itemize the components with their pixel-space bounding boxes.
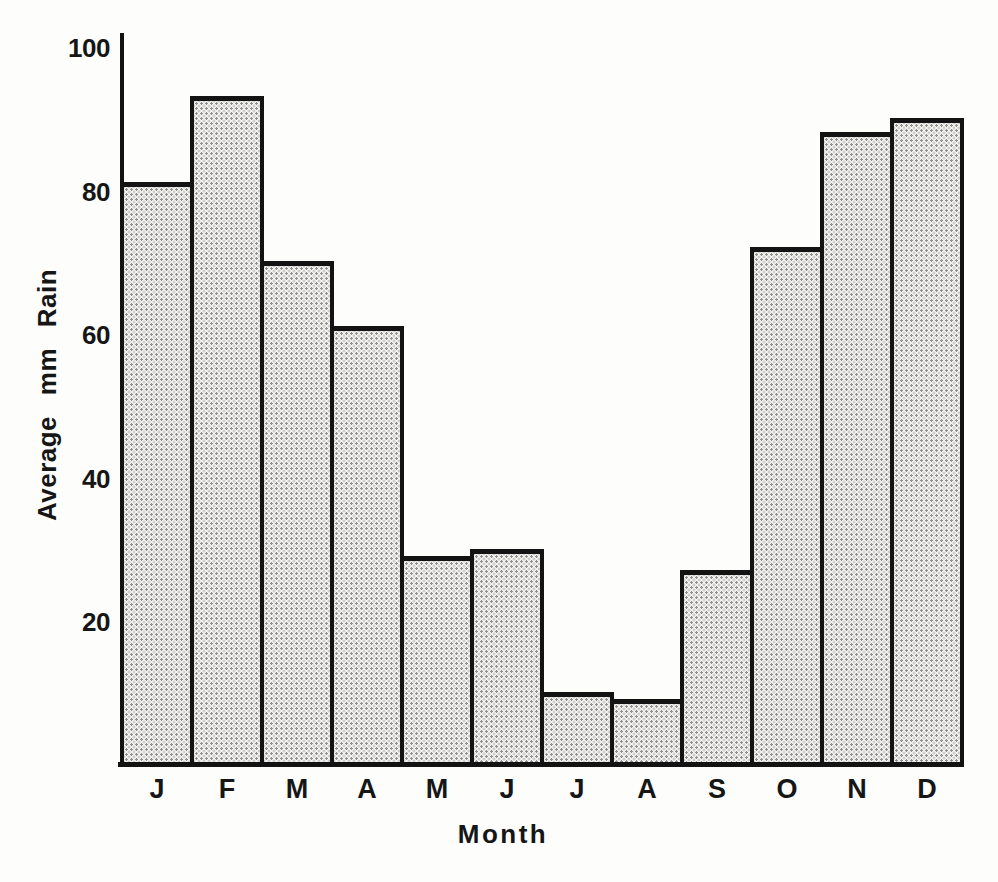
- bar-jan: [120, 182, 194, 767]
- y-axis-line: [120, 33, 124, 767]
- x-axis-line: [118, 762, 964, 767]
- x-category-label-jan: J: [120, 773, 194, 805]
- x-category-label-dec: D: [890, 773, 964, 805]
- bar-nov: [820, 132, 894, 767]
- x-category-label-sep: S: [680, 773, 754, 805]
- y-tick-label-80: 80: [32, 176, 110, 208]
- bar-apr: [330, 326, 404, 767]
- x-axis-title: Month: [353, 818, 653, 850]
- bar-feb: [190, 96, 264, 767]
- bar-jul: [540, 692, 614, 767]
- bar-may: [400, 556, 474, 767]
- x-category-label-nov: N: [820, 773, 894, 805]
- bar-sep: [680, 570, 754, 767]
- x-category-label-jun: J: [470, 773, 544, 805]
- bar-aug: [610, 699, 684, 767]
- bar-oct: [750, 247, 824, 767]
- bar-jun: [470, 549, 544, 767]
- y-axis-title: Average mm Rain: [31, 245, 63, 545]
- y-tick-label-20: 20: [32, 606, 110, 638]
- scanned-rainfall-bar-chart: 20406080100 JFMAMJJASOND Average mm Rain…: [0, 0, 998, 882]
- x-category-label-may: M: [400, 773, 474, 805]
- y-tick-label-100: 100: [32, 32, 110, 64]
- x-category-label-feb: F: [190, 773, 264, 805]
- x-category-label-jul: J: [540, 773, 614, 805]
- x-category-label-mar: M: [260, 773, 334, 805]
- x-category-label-apr: A: [330, 773, 404, 805]
- x-category-label-aug: A: [610, 773, 684, 805]
- bar-dec: [890, 118, 964, 767]
- bar-mar: [260, 261, 334, 767]
- x-category-label-oct: O: [750, 773, 824, 805]
